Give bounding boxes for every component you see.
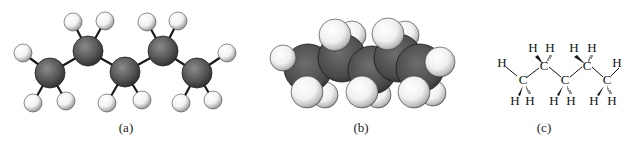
hydrogen-symbol: H [510, 93, 519, 108]
hydrogen-symbol: H [569, 40, 578, 55]
carbon-symbol: C [519, 72, 528, 87]
structural-formula-svg: C C C C C H H H H H H H H H H H H [480, 0, 626, 120]
hydrogen-symbol: H [587, 40, 596, 55]
hydrogen-atom [372, 18, 404, 50]
carbon-symbol: C [603, 72, 612, 87]
hydrogen-symbol: H [545, 40, 554, 55]
carbon-symbol: C [540, 58, 549, 73]
structural-formula: C C C C C H H H H H H H H H H H H (c) [480, 0, 626, 149]
hydrogen-atom [291, 76, 323, 108]
ball-and-stick-model: (a) [0, 0, 250, 149]
hydrogen-atom [270, 45, 296, 71]
hydrogen-symbol: H [607, 93, 616, 108]
panel-label-b: (b) [353, 120, 368, 136]
panel-label-c: (c) [537, 120, 551, 136]
carbon-symbol: C [561, 72, 570, 87]
hydrogen-symbol: H [525, 93, 534, 108]
hydrogen-atom [425, 47, 455, 77]
hydrogen-symbol: H [497, 55, 506, 70]
hydrogen-symbol: H [549, 93, 558, 108]
carbon-symbol: C [583, 58, 592, 73]
hydrogen-atom [346, 76, 378, 108]
ball-and-stick-svg [0, 0, 250, 120]
space-filling-model: (b) [250, 0, 480, 149]
hydrogen-symbol: H [566, 93, 575, 108]
space-filling-svg [250, 0, 480, 120]
hydrogen-atom [398, 76, 430, 108]
hydrogen-symbol: H [589, 93, 598, 108]
hydrogen-symbol: H [612, 55, 621, 70]
panel-label-a: (a) [119, 120, 133, 136]
hydrogen-symbol: H [528, 40, 537, 55]
hydrogen-atom [319, 19, 351, 51]
